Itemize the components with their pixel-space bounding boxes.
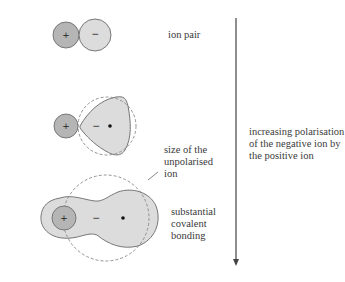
arrow-caption: increasing polarisation of the negative … (249, 126, 344, 162)
covalent-label: substantial covalent bonding (171, 206, 216, 242)
caption-line-2: of the negative ion by (249, 138, 344, 150)
ion-pair-row: + − (53, 19, 111, 51)
distorted-anion (80, 97, 130, 155)
unpolarised-line-1: size of the (164, 144, 213, 156)
plus-sign: + (61, 212, 67, 224)
polarised-row: + − (54, 97, 136, 155)
unpolarised-line-3: ion (164, 168, 213, 180)
nucleus-dot (108, 124, 112, 128)
unpolarised-line-2: unpolarised (164, 156, 213, 168)
plus-sign: + (63, 120, 69, 132)
covalent-line-3: bonding (171, 230, 216, 242)
leader-line (148, 172, 158, 180)
caption-line-3: the positive ion (249, 150, 344, 162)
nucleus-dot (121, 216, 125, 220)
plus-sign: + (63, 29, 69, 41)
arrowhead-icon (233, 259, 239, 266)
minus-sign: − (92, 119, 99, 133)
minus-sign: − (91, 27, 98, 41)
polarisation-arrow (233, 18, 239, 266)
covalent-line-2: covalent (171, 218, 216, 230)
polarisation-diagram: + − + − + − ion pair s (0, 0, 345, 282)
covalent-row: + − (41, 175, 158, 261)
ion-pair-label: ion pair (168, 29, 200, 41)
minus-sign: − (92, 211, 99, 225)
unpolarised-label: size of the unpolarised ion (164, 144, 213, 180)
covalent-line-1: substantial (171, 206, 216, 218)
caption-line-1: increasing polarisation (249, 126, 344, 138)
